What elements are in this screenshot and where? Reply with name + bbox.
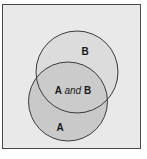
label-a: A <box>56 122 63 133</box>
label-intersection-right: B <box>84 85 91 96</box>
label-a-and-b: A and B <box>55 85 91 96</box>
venn-diagram: B A and B A <box>0 0 147 159</box>
label-b: B <box>81 46 88 57</box>
label-intersection-left: A <box>55 85 62 96</box>
label-intersection-connector: and <box>64 85 81 96</box>
